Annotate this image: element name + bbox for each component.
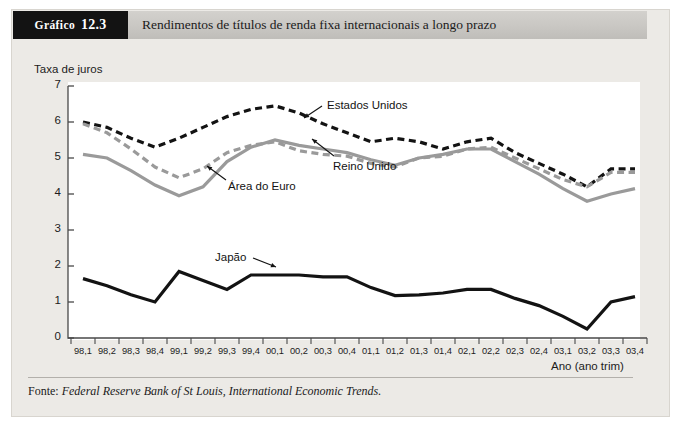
series-label-jap-o: Japão	[215, 251, 246, 263]
figure-page: Gráfico 12.3 Rendimentos de títulos de r…	[0, 0, 681, 435]
series-label--rea-do-euro: Área do Euro	[228, 180, 296, 192]
series-label-estados-unidos: Estados Unidos	[327, 99, 408, 111]
footer-divider	[28, 377, 633, 378]
footer-prefix: Fonte:	[28, 384, 59, 398]
figure-source-note: Fonte: Federal Reserve Bank of St Louis,…	[28, 384, 381, 399]
series-line-jap-o	[83, 271, 635, 329]
series-line-estados-unidos	[83, 106, 635, 187]
chart-plot	[0, 0, 681, 435]
series-label-reino-unido: Reino Unido	[333, 160, 396, 172]
footer-source: Federal Reserve Bank of St Louis, Intern…	[62, 384, 382, 398]
